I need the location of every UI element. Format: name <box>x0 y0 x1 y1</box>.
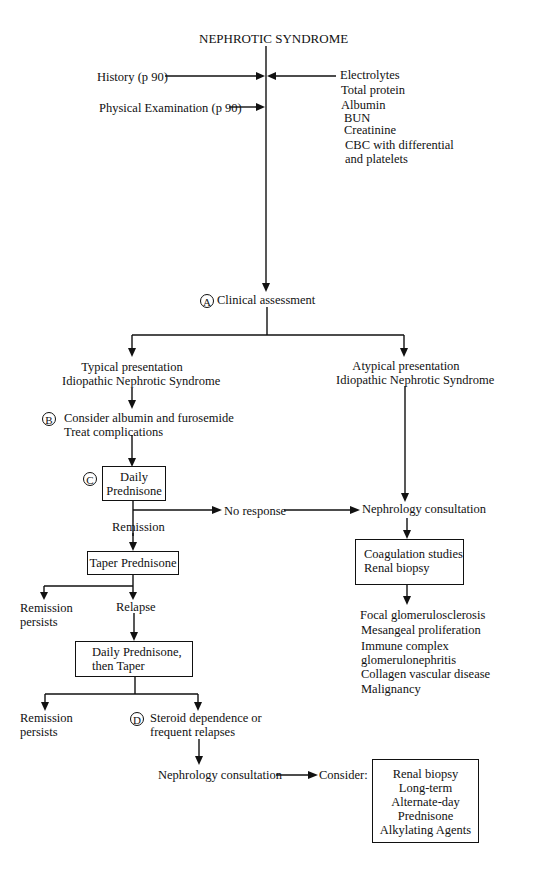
coagulation-box: Coagulation studies Renal biopsy <box>355 539 464 585</box>
step-b-line2: Treat complications <box>64 425 234 439</box>
step-marker-b: B <box>42 412 56 426</box>
daily-prednisone-line1: Daily <box>103 470 165 484</box>
finding-item: Mesangeal proliferation <box>361 623 481 637</box>
daily-then-taper-line2: then Taper <box>92 659 192 673</box>
step-b: B Consider albumin and furosemide Treat … <box>42 411 234 439</box>
step-d-line1: Steroid dependence or <box>150 711 262 725</box>
typical-presentation: Typical presentation Idiopathic Nephroti… <box>62 360 202 388</box>
typical-line2: Idiopathic Nephrotic Syndrome <box>62 374 202 388</box>
daily-prednisone-line2: Prednisone <box>103 484 165 498</box>
coag-line2: Renal biopsy <box>364 561 463 575</box>
nephrology-consultation-bottom: Nephrology consultation <box>158 768 282 782</box>
consider-item: Alkylating Agents <box>373 823 478 837</box>
consider-item: Renal biopsy <box>373 767 478 781</box>
finding-item: Malignancy <box>361 682 421 696</box>
remission-persists-1: Remission persists <box>20 601 73 629</box>
remission-persists-1-line1: Remission <box>20 601 73 615</box>
finding-item: glomerulonephritis <box>361 653 456 667</box>
lab-item: and platelets <box>345 152 408 166</box>
step-d: D Steroid dependence or frequent relapse… <box>130 711 262 739</box>
finding-item: Focal glomerulosclerosis <box>360 608 485 622</box>
step-a-clinical-assessment: AClinical assessment <box>200 293 315 308</box>
no-response-label: No response <box>224 504 286 518</box>
diagram-title: NEPHROTIC SYNDROME <box>199 32 348 46</box>
step-marker-a: A <box>200 294 214 308</box>
clinical-assessment-label: Clinical assessment <box>217 293 315 307</box>
daily-then-taper-line1: Daily Prednisone, <box>92 645 192 659</box>
step-marker-c: C <box>83 472 97 486</box>
lab-item: CBC with differential <box>345 138 454 152</box>
coag-line1: Coagulation studies <box>364 547 463 561</box>
consider-label: Consider: <box>319 768 368 782</box>
consider-item: Prednisone <box>373 809 478 823</box>
relapse-label: Relapse <box>116 600 156 614</box>
atypical-line2: Idiopathic Nephrotic Syndrome <box>336 373 476 387</box>
taper-prednisone-label: Taper Prednisone <box>90 556 177 570</box>
lab-item: Albumin <box>341 98 385 112</box>
lab-item: Total protein <box>341 83 405 97</box>
lab-item: Creatinine <box>344 123 396 137</box>
remission-persists-2-line1: Remission <box>20 711 73 725</box>
remission-persists-2-line2: persists <box>20 725 73 739</box>
atypical-line1: Atypical presentation <box>336 359 476 373</box>
consider-item: Long-term <box>373 781 478 795</box>
step-d-line2: frequent relapses <box>150 725 262 739</box>
finding-item: Immune complex <box>361 639 449 653</box>
atypical-presentation: Atypical presentation Idiopathic Nephrot… <box>336 359 476 387</box>
remission-label: Remission <box>112 520 165 534</box>
daily-prednisone-box: Daily Prednisone <box>102 466 166 501</box>
nephrology-consultation-right: Nephrology consultation <box>362 502 486 516</box>
typical-line1: Typical presentation <box>62 360 202 374</box>
physical-exam-label: Physical Examination (p 90) <box>99 101 242 115</box>
consider-item: Alternate-day <box>373 795 478 809</box>
step-b-line1: Consider albumin and furosemide <box>64 411 234 425</box>
history-label: History (p 90) <box>97 70 168 84</box>
lab-item: Electrolytes <box>340 68 400 82</box>
daily-then-taper-box: Daily Prednisone, then Taper <box>75 641 193 677</box>
remission-persists-2: Remission persists <box>20 711 73 739</box>
consider-options-box: Renal biopsy Long-term Alternate-day Pre… <box>372 759 479 843</box>
finding-item: Collagen vascular disease <box>361 667 490 681</box>
taper-prednisone-box: Taper Prednisone <box>87 551 179 575</box>
step-marker-d: D <box>130 712 144 726</box>
remission-persists-1-line2: persists <box>20 615 73 629</box>
